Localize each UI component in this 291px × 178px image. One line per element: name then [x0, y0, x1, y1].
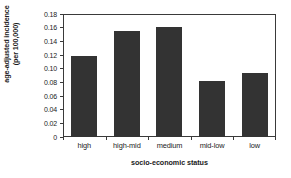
y-axis-tick: 0.12	[44, 50, 63, 60]
bar[interactable]	[71, 56, 97, 137]
bar[interactable]	[114, 31, 140, 137]
x-axis-tick-mark	[63, 137, 64, 140]
bar[interactable]	[156, 27, 182, 137]
y-axis-tick: 0.08	[44, 77, 63, 87]
bar-slot	[106, 14, 149, 137]
x-axis-category-label: medium	[148, 141, 191, 150]
y-axis-tick: 0.14	[44, 36, 63, 46]
x-axis-tick-mark	[275, 137, 276, 140]
x-axis-tick-mark	[233, 137, 234, 140]
y-axis-tick: 0.06	[44, 91, 63, 101]
x-axis-title: socio-economic status	[63, 158, 276, 167]
x-axis-tick-mark	[191, 137, 192, 140]
x-axis-tick-mark	[148, 137, 149, 140]
y-axis-tick-label: 0.08	[44, 79, 60, 86]
bar-slot	[148, 14, 191, 137]
y-axis-tick-label: 0.10	[44, 65, 60, 72]
bar[interactable]	[242, 73, 268, 137]
bar[interactable]	[199, 81, 225, 137]
y-axis-tick: 0.18	[44, 9, 63, 19]
y-axis-tick-label: 0.02	[44, 120, 60, 127]
y-axis-tick: 0.02	[44, 118, 63, 128]
y-axis-tick-label: 0	[53, 134, 60, 141]
y-axis-tick-label: 0.18	[44, 11, 60, 18]
x-axis-labels: highhigh-midmediummid-lowlow	[63, 141, 276, 153]
y-axis-ticks: 0.180.160.140.120.100.080.060.040.020	[0, 0, 63, 151]
bar-slot	[233, 14, 276, 137]
bar-slot	[191, 14, 234, 137]
y-axis-tick-label: 0.04	[44, 106, 60, 113]
x-axis-tick-mark	[106, 137, 107, 140]
x-axis-category-label: mid-low	[191, 141, 234, 150]
x-axis-category-label: low	[233, 141, 276, 150]
x-axis-category-label: high	[63, 141, 106, 150]
y-axis-tick: 0.10	[44, 64, 63, 74]
y-axis-tick-label: 0.06	[44, 93, 60, 100]
y-axis-tick: 0	[53, 132, 63, 142]
bar-slot	[63, 14, 106, 137]
bars-layer	[63, 14, 276, 137]
y-axis-tick-label: 0.12	[44, 52, 60, 59]
bar-chart: age-adjusted incidence (per 100,000) 0.1…	[0, 0, 291, 178]
y-axis-tick: 0.16	[44, 23, 63, 33]
y-axis-tick-label: 0.14	[44, 38, 60, 45]
y-axis-tick: 0.04	[44, 105, 63, 115]
x-axis-category-label: high-mid	[106, 141, 149, 150]
y-axis-tick-label: 0.16	[44, 24, 60, 31]
